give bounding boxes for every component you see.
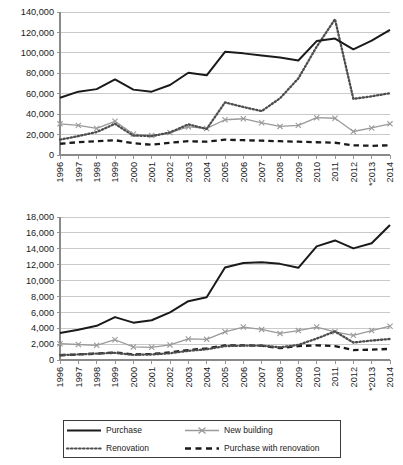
y-axis-tick-label: 4,000 [31, 323, 54, 333]
legend-label-purchase: Purchase [106, 425, 142, 435]
x-axis-tick-label: 2010 [312, 162, 322, 182]
x-axis-tick-label: 2001 [147, 367, 157, 387]
x-axis-tick-label: 2010 [312, 367, 322, 387]
x-axis-tick-label: 2007 [257, 367, 267, 387]
legend-swatch-purchase-with-renovation [184, 443, 220, 454]
series-line-purchase-with-renovation [60, 140, 390, 146]
y-axis-tick-label: 80,000 [26, 68, 54, 78]
x-axis-tick-label: 2001 [147, 162, 157, 182]
y-axis-tick-label: 6,000 [31, 308, 54, 318]
x-axis-tick-label: 2009 [294, 162, 304, 182]
x-axis-tick-label: *2013 [367, 162, 377, 186]
x-axis-tick-label: 2007 [257, 162, 267, 182]
x-axis-tick-label: 2009 [294, 367, 304, 387]
legend-item-renovation: Renovation [66, 443, 184, 454]
x-axis-tick-label: 2000 [129, 162, 139, 182]
series-line-renovation [60, 331, 390, 355]
bottom-chart-panel: 02,0004,0006,0008,00010,00012,00014,0001… [0, 205, 403, 410]
top-chart-panel: 020,00040,00060,00080,000100,000120,0001… [0, 0, 403, 205]
x-axis-tick-label: 2008 [275, 367, 285, 387]
y-axis-tick-label: 8,000 [31, 292, 54, 302]
chart-legend: Purchase New building Renovation Purchas… [63, 420, 341, 458]
x-axis-tick-label: 1998 [92, 162, 102, 182]
legend-label-purchase-with-renovation: Purchase with renovation [224, 443, 319, 453]
x-axis-tick-label: 2004 [202, 162, 212, 182]
y-axis-tick-label: 14,000 [26, 244, 54, 254]
x-axis-tick-label: 2006 [239, 162, 249, 182]
series-line-purchase [60, 225, 390, 333]
x-axis-tick-label: 1999 [110, 162, 120, 182]
x-axis-tick-label: *2013 [367, 367, 377, 391]
x-axis-tick-label: 2014 [385, 162, 395, 182]
x-axis-tick-label: 2011 [330, 367, 340, 387]
legend-item-purchase: Purchase [66, 425, 184, 436]
y-axis-tick-label: 40,000 [26, 109, 54, 119]
y-axis-tick-label: 2,000 [31, 339, 54, 349]
y-axis-tick-label: 0 [49, 150, 54, 160]
x-axis-tick-label: 2002 [165, 367, 175, 387]
x-axis-tick-label: 2012 [349, 367, 359, 387]
y-axis-tick-label: 60,000 [26, 89, 54, 99]
y-axis-tick-label: 18,000 [26, 212, 54, 222]
y-axis-tick-label: 12,000 [26, 260, 54, 270]
x-axis-tick-label: 2005 [220, 367, 230, 387]
top-chart-svg: 020,00040,00060,00080,000100,000120,0001… [0, 0, 403, 205]
x-axis-tick-label: 2005 [220, 162, 230, 182]
y-axis-tick-label: 140,000 [21, 7, 54, 17]
x-axis-tick-label: 1997 [74, 162, 84, 182]
x-axis-tick-label: 2006 [239, 367, 249, 387]
x-axis-tick-label: 2011 [330, 162, 340, 182]
y-axis-tick-label: 0 [49, 355, 54, 365]
legend-label-renovation: Renovation [106, 443, 149, 453]
legend-swatch-new-building [184, 425, 220, 436]
y-axis-tick-label: 20,000 [26, 130, 54, 140]
x-axis-tick-label: 2003 [184, 367, 194, 387]
x-axis-tick-label: 2014 [385, 367, 395, 387]
x-axis-tick-label: 2000 [129, 367, 139, 387]
x-axis-tick-label: 2004 [202, 367, 212, 387]
legend-label-new-building: New building [224, 425, 273, 435]
y-axis-tick-label: 100,000 [21, 48, 54, 58]
x-axis-tick-label: 2012 [349, 162, 359, 182]
legend-swatch-purchase [66, 425, 102, 436]
y-axis-tick-label: 120,000 [21, 28, 54, 38]
x-axis-tick-label: 1999 [110, 367, 120, 387]
legend-swatch-renovation [66, 443, 102, 454]
legend-item-new-building: New building [184, 425, 344, 436]
legend-item-purchase-with-renovation: Purchase with renovation [184, 443, 344, 454]
series-line-purchase [60, 30, 390, 98]
x-axis-tick-label: 1998 [92, 367, 102, 387]
y-axis-tick-label: 16,000 [26, 228, 54, 238]
x-axis-tick-label: 2002 [165, 162, 175, 182]
x-axis-tick-label: 2008 [275, 162, 285, 182]
y-axis-tick-label: 10,000 [26, 276, 54, 286]
x-axis-tick-label: 1996 [55, 162, 65, 182]
x-axis-tick-label: 1996 [55, 367, 65, 387]
x-axis-tick-label: 2003 [184, 162, 194, 182]
x-axis-tick-label: 1997 [74, 367, 84, 387]
bottom-chart-svg: 02,0004,0006,0008,00010,00012,00014,0001… [0, 205, 403, 410]
